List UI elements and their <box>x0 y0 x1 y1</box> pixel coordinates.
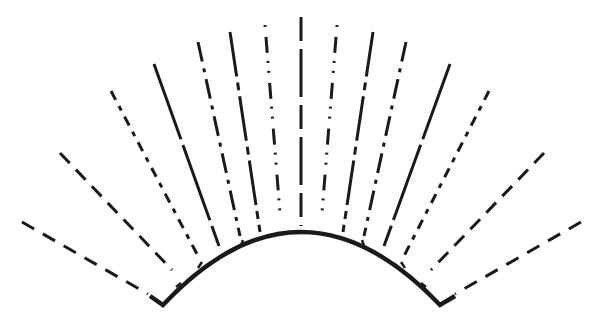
ray-line-l2 <box>60 153 172 270</box>
ray-line-r1 <box>455 222 581 294</box>
ray-line-l1 <box>22 222 148 294</box>
ray-line-r7 <box>322 25 337 213</box>
ray-line-r6 <box>343 32 373 232</box>
arc-tick-1 <box>198 262 202 268</box>
ray-line-l7 <box>265 25 280 213</box>
diagram-canvas <box>0 0 599 332</box>
ray-line-l6 <box>230 32 260 232</box>
ray-line-r3 <box>404 91 489 256</box>
base-arc <box>150 232 455 305</box>
ray-line-l3 <box>111 91 198 256</box>
radial-arc-diagram <box>0 0 599 332</box>
radial-lines <box>22 17 581 294</box>
arc-tick-4 <box>401 262 405 268</box>
